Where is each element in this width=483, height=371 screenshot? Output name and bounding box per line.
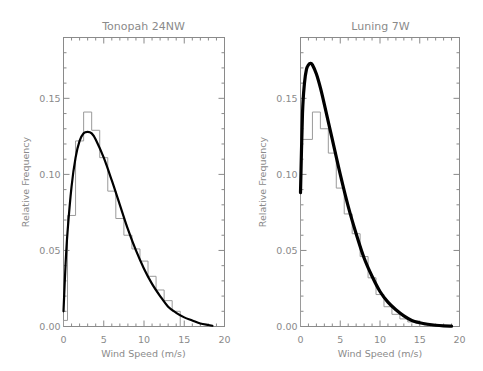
panel-title: Tonopah 24NW	[101, 20, 185, 33]
fit-curve	[301, 63, 452, 326]
plot-frame	[301, 38, 460, 327]
y-tick-label: 0.00	[39, 321, 60, 332]
y-axis-label: Relative Frequency	[257, 136, 268, 227]
tick-labels: 051015200.000.050.100.15	[276, 93, 465, 345]
axis-ticks	[301, 38, 460, 327]
x-tick-label: 15	[178, 334, 190, 345]
x-tick-label: 5	[337, 334, 343, 345]
chart-canvas: Tonopah 24NW 051015200.000.050.100.15 Wi…	[0, 0, 483, 371]
x-tick-label: 20	[218, 334, 230, 345]
x-axis-label: Wind Speed (m/s)	[101, 348, 186, 359]
histogram-steps	[301, 112, 432, 326]
tick-marks	[301, 38, 460, 327]
x-tick-label: 10	[374, 334, 386, 345]
y-tick-label: 0.05	[39, 245, 60, 256]
panel-luning: Luning 7W 051015200.000.050.100.15 Wind …	[257, 20, 466, 359]
x-tick-label: 5	[101, 334, 107, 345]
axis-ticks	[64, 38, 225, 327]
x-tick-label: 0	[297, 334, 303, 345]
y-tick-label: 0.00	[276, 321, 297, 332]
y-tick-label: 0.10	[276, 169, 297, 180]
x-tick-label: 20	[453, 334, 465, 345]
tick-marks	[64, 38, 225, 327]
x-tick-label: 0	[60, 334, 66, 345]
plot-frame	[64, 38, 225, 327]
y-axis-label: Relative Frequency	[20, 136, 31, 227]
x-axis-label: Wind Speed (m/s)	[338, 348, 423, 359]
panel-title: Luning 7W	[351, 20, 409, 33]
histogram-steps	[64, 112, 181, 326]
y-tick-label: 0.15	[39, 93, 60, 104]
y-tick-label: 0.05	[276, 245, 297, 256]
x-tick-label: 10	[138, 334, 150, 345]
fit-curve	[64, 132, 213, 326]
y-tick-label: 0.15	[276, 93, 297, 104]
panel-tonopah: Tonopah 24NW 051015200.000.050.100.15 Wi…	[20, 20, 231, 359]
y-tick-label: 0.10	[39, 169, 60, 180]
x-tick-label: 15	[414, 334, 426, 345]
